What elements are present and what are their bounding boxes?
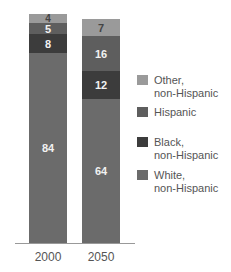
legend-label: Other,non-Hispanic [154, 74, 218, 100]
value-label: 8 [45, 38, 51, 50]
segment-white-2050: 64 [82, 99, 120, 243]
legend-swatch-other [137, 75, 148, 85]
segment-white-2000: 84 [29, 53, 67, 243]
legend-item-black: Black,non-Hispanic [137, 136, 218, 162]
segment-hispanic-2000: 5 [29, 23, 67, 34]
x-tick-2000: 2000 [28, 250, 68, 264]
segment-other-2050: 7 [82, 19, 120, 36]
legend-swatch-black [137, 137, 148, 147]
legend-swatch-white [137, 170, 148, 180]
legend-swatch-hispanic [137, 107, 148, 117]
legend-label: Hispanic [154, 106, 196, 119]
value-label: 12 [95, 79, 107, 91]
legend-label: Black,non-Hispanic [154, 136, 218, 162]
value-label: 84 [42, 142, 54, 154]
segment-black-2050: 12 [82, 71, 120, 99]
x-axis-baseline [15, 243, 135, 244]
segment-hispanic-2050: 16 [82, 36, 120, 71]
value-label: 64 [95, 165, 107, 177]
legend-item-other: Other,non-Hispanic [137, 74, 218, 100]
legend-item-hispanic: Hispanic [137, 106, 196, 119]
bar-2000: 4 5 8 84 [29, 14, 67, 243]
legend-item-white: White,non-Hispanic [137, 169, 218, 195]
x-tick-2050: 2050 [81, 250, 121, 264]
segment-black-2000: 8 [29, 34, 67, 53]
legend-label: White,non-Hispanic [154, 169, 218, 195]
bar-2050: 7 16 12 64 [82, 19, 120, 243]
value-label: 7 [98, 22, 104, 34]
value-label: 16 [95, 48, 107, 60]
value-label: 5 [45, 23, 51, 35]
